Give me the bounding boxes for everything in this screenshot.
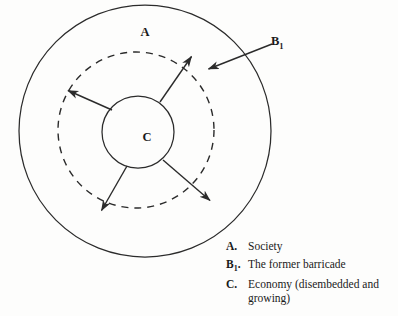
legend-key-a: A. — [226, 240, 245, 254]
legend-text-b1: The former barricade — [248, 258, 396, 272]
legend-key-b1: B1. — [226, 258, 245, 274]
arrow-lower-left — [102, 166, 128, 211]
label-b1-barricade: B1 — [271, 34, 284, 51]
legend-key-b1-subscript: 1 — [234, 264, 238, 273]
figure-container: A C B1 A. Society B1. The former barrica… — [0, 0, 398, 316]
legend: A. Society B1. The former barricade C. E… — [226, 240, 396, 310]
arrow-upper-left — [68, 91, 112, 111]
legend-key-a-base: A — [226, 240, 234, 252]
inner-circle-economy — [102, 96, 174, 168]
arrow-lower-right — [163, 160, 210, 201]
label-b1-base: B — [271, 34, 279, 48]
legend-item-a: A. Society — [226, 240, 396, 254]
legend-item-b1: B1. The former barricade — [226, 258, 396, 274]
label-a-society: A — [140, 25, 149, 39]
legend-text-a: Society — [248, 240, 396, 254]
label-c-economy: C — [142, 130, 151, 144]
legend-text-c: Economy (disembedded and growing) — [248, 278, 396, 305]
label-b1-subscript: 1 — [279, 41, 283, 51]
legend-key-b1-base: B — [226, 258, 234, 270]
legend-key-c: C. — [226, 278, 245, 292]
legend-item-c: C. Economy (disembedded and growing) — [226, 278, 396, 305]
legend-key-c-base: C — [226, 278, 234, 290]
